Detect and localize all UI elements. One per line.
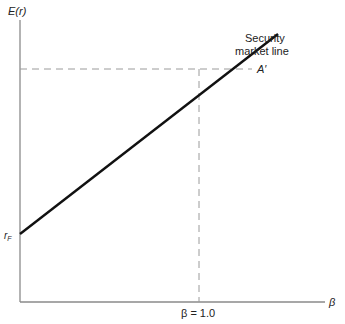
sml-label-line1: Security bbox=[245, 32, 285, 44]
beta-tick-label: β = 1.0 bbox=[181, 307, 215, 319]
intercept-label: rF bbox=[4, 230, 12, 242]
security-market-line bbox=[20, 34, 278, 234]
sml-chart: E(r) β Security market line A′ rF β = 1.… bbox=[0, 0, 345, 324]
y-axis-label: E(r) bbox=[8, 5, 27, 17]
intercept-subscript: F bbox=[7, 235, 12, 242]
x-axis-label: β bbox=[328, 296, 336, 308]
sml-label-line2: market line bbox=[235, 45, 289, 57]
a-prime-label: A′ bbox=[256, 63, 267, 75]
